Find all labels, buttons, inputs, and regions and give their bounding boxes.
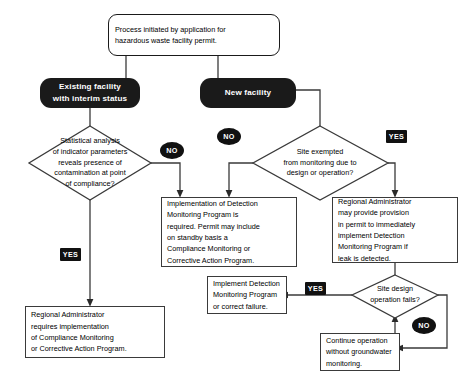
node-implement-detection-text: Implement Detection Monitoring Program o… [213, 278, 281, 312]
wire-new-to-exempted [296, 90, 320, 126]
continue-operation-line1: Continue operation [326, 336, 388, 345]
node-start-text: Process initiated by application for haz… [115, 24, 273, 47]
regional-requires-line2: requires implementation [31, 322, 109, 331]
detection-monitoring-line5: Compliance Monitoring or [167, 244, 250, 253]
node-new-facility: New facility [200, 78, 296, 108]
wire-statistical-no [151, 163, 180, 194]
implement-detection-line3: or correct failure. [213, 302, 268, 311]
continue-operation-line3: monitoring. [326, 359, 362, 368]
regional-requires-line4: or Corrective Action Program. [31, 344, 127, 353]
node-continue-operation: Continue operation without groundwater m… [320, 333, 400, 371]
regional-provision-line3: in permit to immediately [338, 220, 415, 229]
node-regional-provision: Regional Administrator may provide provi… [332, 197, 458, 263]
node-existing-facility-line2: with interim status [53, 93, 127, 105]
node-detection-monitoring-text: Implementation of Detection Monitoring P… [167, 198, 291, 266]
implement-detection-line1: Implement Detection [213, 279, 280, 288]
detection-monitoring-line2: Monitoring Program is [167, 210, 238, 219]
badge-yes-site-design: YES [305, 282, 326, 295]
node-detection-monitoring: Implementation of Detection Monitoring P… [161, 197, 297, 267]
node-existing-facility: Existing facility with interim status [40, 78, 140, 108]
node-start-line1: Process initiated by application for [115, 25, 226, 34]
node-existing-facility-line1: Existing facility [59, 81, 121, 93]
diamond-exempted-shape [253, 126, 388, 200]
node-new-facility-line1: New facility [225, 87, 271, 99]
badge-no-exempted: NO [217, 128, 241, 145]
badge-yes-statistical: YES [60, 248, 81, 261]
node-regional-provision-text: Regional Administrator may provide provi… [338, 196, 452, 264]
wire-exempted-no [229, 163, 253, 194]
detection-monitoring-line6: Corrective Action Program. [167, 256, 254, 265]
flowchart-canvas: Process initiated by application for haz… [0, 0, 464, 392]
diamond-sitedesign-shape [352, 275, 438, 318]
diamond-statistical-shape [29, 126, 151, 200]
node-continue-operation-text: Continue operation without groundwater m… [326, 335, 394, 369]
node-start-line2: hazardous waste facility permit. [115, 36, 217, 45]
regional-provision-line2: may provide provision [338, 208, 409, 217]
regional-provision-line5: Monitoring Program if [338, 242, 408, 251]
badge-no-site-design: NO [412, 317, 436, 334]
node-start: Process initiated by application for haz… [108, 14, 280, 56]
regional-provision-line6: leak is detected. [338, 254, 391, 263]
implement-detection-line2: Monitoring Program [213, 290, 277, 299]
regional-provision-line1: Regional Administrator [338, 197, 411, 206]
badge-yes-exempted: YES [386, 130, 407, 143]
continue-operation-line2: without groundwater [326, 347, 392, 356]
detection-monitoring-line4: on standby basis a [167, 233, 228, 242]
node-regional-requires: Regional Administrator requires implemen… [25, 306, 165, 358]
regional-requires-line1: Regional Administrator [31, 310, 104, 319]
badge-no-statistical: NO [160, 142, 184, 159]
regional-requires-line3: of Compliance Monitoring [31, 333, 114, 342]
node-regional-requires-text: Regional Administrator requires implemen… [31, 309, 159, 354]
wire-exempted-yes [388, 163, 395, 194]
node-implement-detection: Implement Detection Monitoring Program o… [207, 276, 287, 314]
detection-monitoring-line3: required. Permit may include [167, 222, 260, 231]
detection-monitoring-line1: Implementation of Detection [167, 199, 258, 208]
regional-provision-line4: implement Detection [338, 231, 405, 240]
